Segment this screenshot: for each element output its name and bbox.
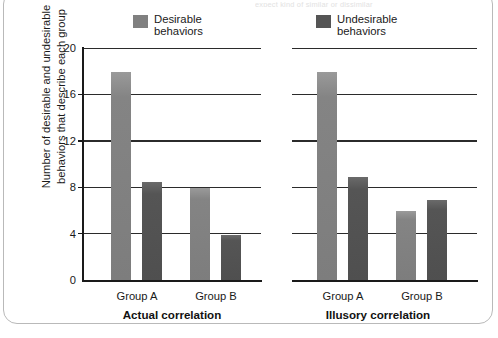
bar-illusory-groupB-undesirable	[427, 200, 447, 281]
bar-illusory-groupA-desirable	[317, 72, 337, 281]
bar-illusory-groupA-undesirable	[348, 177, 368, 281]
x-axis-line-left	[82, 280, 262, 282]
panel-label-illusory: Illusory correlation	[288, 308, 468, 321]
bar-actual-groupB-undesirable	[221, 235, 241, 281]
group-label-illusory-a: Group A	[308, 290, 378, 302]
bar-illusory-groupB-desirable	[396, 211, 416, 281]
bars-layer	[0, 0, 498, 281]
panel-label-actual: Actual correlation	[82, 308, 262, 321]
plot-area: 20 16 12 8 4 0 Group A Group B Group A G…	[0, 0, 498, 338]
group-label-illusory-b: Group B	[387, 290, 457, 302]
group-label-actual-b: Group B	[181, 290, 251, 302]
bar-actual-groupB-desirable	[190, 188, 210, 281]
group-label-actual-a: Group A	[102, 290, 172, 302]
bar-actual-groupA-desirable	[111, 72, 131, 281]
bar-actual-groupA-undesirable	[142, 182, 162, 281]
x-axis-line-right	[292, 280, 478, 282]
